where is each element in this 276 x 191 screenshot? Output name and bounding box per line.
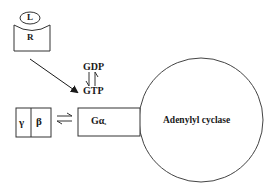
activation-arrow [30,59,77,92]
gpcr-diagram [0,0,276,191]
gdp-label: GDP [83,62,104,72]
g-alpha-main: Gα [91,115,104,126]
gtp-label: GTP [83,86,104,96]
adenylyl-cyclase-label: Adenylyl cyclase [163,116,230,126]
equilibrium-arrows-icon [57,113,72,124]
g-alpha-subscript: s [104,121,106,126]
g-alpha-label: Gαs [91,116,106,126]
g-alpha-box [78,108,140,136]
beta-label: β [36,116,42,127]
nucleotide-exchange-arrows-icon [86,72,98,86]
gamma-label: γ [19,117,24,128]
ligand-label: L [27,13,33,22]
receptor-label: R [27,33,34,42]
